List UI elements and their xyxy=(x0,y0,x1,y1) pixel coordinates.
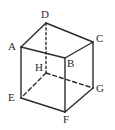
cube-edge-ef xyxy=(21,98,65,112)
cube-edge-hg xyxy=(46,73,93,88)
cube-edge-ad xyxy=(21,23,46,47)
vertex-label-e: E xyxy=(8,92,15,103)
cube-edge-cb xyxy=(65,42,93,58)
vertex-label-h: H xyxy=(35,62,43,73)
vertex-label-c: C xyxy=(96,33,103,44)
vertex-label-a: A xyxy=(8,41,16,52)
vertex-label-f: F xyxy=(63,114,69,125)
cube-line-drawing xyxy=(0,0,115,130)
cube-edge-fg xyxy=(65,88,93,112)
cube-edge-he xyxy=(21,73,46,98)
vertex-label-b: B xyxy=(67,58,74,69)
cube-edge-ba xyxy=(21,47,65,58)
cube-edge-dc xyxy=(46,23,93,42)
solid-edge-group xyxy=(21,23,93,112)
vertex-label-g: G xyxy=(96,83,104,94)
vertex-label-d: D xyxy=(41,9,49,20)
hidden-edge-group xyxy=(21,23,93,98)
cube-figure: ABCDEFGH xyxy=(0,0,115,130)
